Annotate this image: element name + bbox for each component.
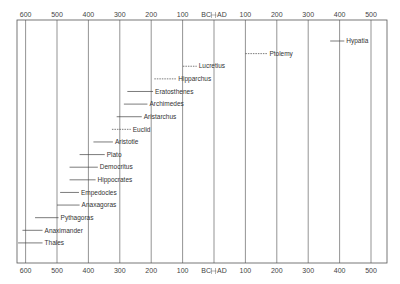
tick-label: 200: [145, 267, 157, 274]
philosopher-label: Eratosthenes: [155, 88, 194, 95]
tick-label: 300: [302, 11, 314, 18]
tick-label: 500: [51, 267, 63, 274]
philosopher-label: Thales: [45, 239, 65, 246]
era-label-bc: BC: [201, 267, 211, 274]
philosopher-label: Pythagoras: [61, 214, 95, 222]
philosopher-label: Anaxagoras: [82, 201, 117, 209]
tick-label: 200: [145, 11, 157, 18]
tick-label: 100: [177, 11, 189, 18]
philosopher-label: Hippocrates: [98, 176, 133, 184]
tick-label: 300: [302, 267, 314, 274]
philosopher-label: Archimedes: [149, 100, 184, 107]
timeline-chart: 600500400300200100BCAD100200300400500 60…: [0, 0, 400, 284]
tick-label: 500: [51, 11, 63, 18]
philosopher-label: Aristotle: [115, 138, 139, 145]
tick-label: 400: [83, 267, 95, 274]
tick-label: 600: [20, 267, 32, 274]
philosopher-label: Aristarchus: [144, 113, 177, 120]
lifespan-bars: HypatiaPtolemyLucretiusHipparchusEratost…: [18, 37, 369, 246]
era-label-bc: BC: [201, 11, 211, 18]
philosopher-label: Ptolemy: [269, 50, 293, 58]
tick-label: 100: [177, 267, 189, 274]
philosopher-label: Hypatia: [346, 37, 368, 45]
tick-label: 200: [271, 267, 283, 274]
era-label-ad: AD: [217, 11, 227, 18]
bottom-axis: 600500400300200100BCAD100200300400500: [20, 267, 377, 274]
era-label-ad: AD: [217, 267, 227, 274]
philosopher-label: Euclid: [133, 126, 151, 133]
tick-label: 200: [271, 11, 283, 18]
tick-label: 100: [240, 267, 252, 274]
philosopher-label: Plato: [107, 151, 122, 158]
tick-label: 300: [114, 11, 126, 18]
tick-label: 400: [334, 267, 346, 274]
tick-label: 100: [240, 11, 252, 18]
philosopher-label: Anaximander: [45, 227, 84, 234]
philosopher-label: Empedocles: [81, 189, 118, 197]
tick-label: 300: [114, 267, 126, 274]
tick-label: 400: [334, 11, 346, 18]
top-axis: 600500400300200100BCAD100200300400500: [20, 11, 377, 18]
tick-label: 500: [365, 267, 377, 274]
tick-label: 500: [365, 11, 377, 18]
philosopher-label: Hipparchus: [178, 75, 212, 83]
philosopher-label: Democritus: [100, 163, 134, 170]
tick-label: 400: [83, 11, 95, 18]
tick-label: 600: [20, 11, 32, 18]
philosopher-label: Lucretius: [199, 62, 226, 69]
